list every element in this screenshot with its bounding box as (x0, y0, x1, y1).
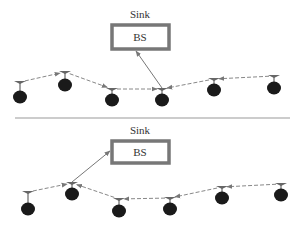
hop-arrow (124, 198, 165, 199)
antenna-head-icon (268, 75, 280, 78)
sensor-node-body (207, 84, 221, 97)
sensor-node-body (155, 94, 169, 107)
antenna-head-icon (275, 183, 287, 186)
hop-arrow (70, 74, 108, 88)
network-diagram: Sink BS Sink BS (0, 0, 304, 229)
sensor-node-body (215, 192, 229, 205)
sensor-node-body (267, 82, 281, 95)
sensor-node (207, 78, 221, 97)
uplink-arrow (136, 51, 162, 88)
antenna-head-icon (66, 182, 78, 185)
sensor-node-body (105, 94, 119, 107)
sensor-node-body (58, 79, 72, 92)
sensor-node (155, 88, 169, 107)
antenna-head-icon (156, 88, 168, 91)
panel-top: Sink BS (13, 8, 281, 107)
sensor-node-body (13, 91, 27, 104)
bs-label: BS (133, 31, 146, 43)
sensor-node (215, 186, 229, 205)
antenna-head-icon (216, 186, 228, 189)
hop-arrow (219, 76, 269, 79)
sink-label: Sink (130, 124, 151, 136)
sensor-node (163, 197, 177, 216)
hop-arrow (25, 73, 60, 81)
hop-arrow (227, 184, 276, 186)
sensor-node (274, 183, 288, 202)
sensor-nodes (21, 182, 288, 218)
antenna-head-icon (59, 71, 71, 74)
sink-label: Sink (130, 8, 151, 20)
uplink-arrow (72, 151, 110, 182)
antenna-head-icon (113, 198, 125, 201)
sensor-node-body (65, 188, 79, 201)
antenna-head-icon (14, 81, 26, 84)
hop-arrow (77, 185, 115, 198)
base-station: BS (112, 141, 169, 163)
sensor-node (13, 81, 27, 104)
panel-bottom: Sink BS (21, 124, 288, 218)
sensor-node (112, 198, 126, 218)
antenna-head-icon (164, 197, 176, 200)
sensor-node-body (274, 189, 288, 202)
bs-label: BS (133, 146, 146, 158)
antenna-head-icon (208, 78, 220, 81)
sensor-node (267, 75, 281, 95)
hop-arrow (175, 188, 217, 197)
sensor-node-body (21, 203, 35, 216)
antenna-head-icon (106, 88, 118, 91)
sensor-node (105, 88, 119, 107)
sensor-node-body (163, 203, 177, 216)
sensor-node-body (112, 205, 126, 218)
antenna-head-icon (22, 191, 34, 194)
sensor-node (21, 191, 35, 216)
hop-arrow (167, 80, 209, 88)
base-station: BS (112, 25, 169, 49)
hop-arrow (33, 184, 67, 191)
